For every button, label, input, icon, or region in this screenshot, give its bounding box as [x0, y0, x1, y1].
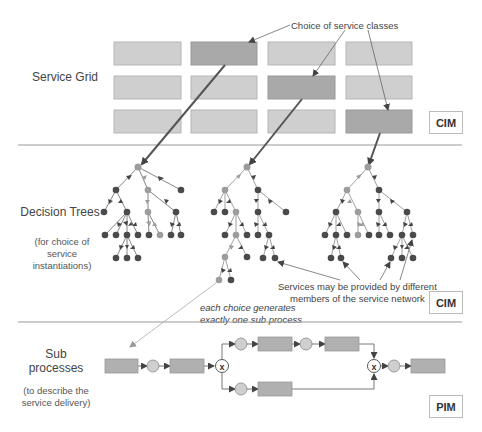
grid-cell [191, 76, 257, 99]
task-box [105, 359, 138, 373]
task-box [325, 337, 359, 351]
grid-cell-selected [268, 76, 335, 99]
grid-cell [114, 76, 181, 99]
decision-tree-3 [322, 164, 417, 262]
service-grid [114, 42, 412, 133]
grid-cell [268, 42, 335, 65]
sub-process-flow: x x [105, 337, 445, 396]
choice-generates-arrow [130, 283, 216, 347]
grid-cell [346, 76, 412, 99]
grid-cell-selected [346, 110, 412, 133]
event-circle [235, 383, 247, 395]
grid-cell-selected [191, 42, 257, 65]
decision-tree-1 [101, 164, 185, 262]
task-box [411, 359, 445, 373]
grid-cell [114, 42, 181, 65]
decision-tree-2 [211, 164, 290, 284]
grid-cell [346, 42, 412, 65]
event-circle [147, 360, 159, 372]
diagram-canvas: x x [0, 0, 482, 432]
task-box [170, 359, 204, 373]
gateway-x-symbol: x [219, 362, 224, 372]
event-circle [300, 338, 312, 350]
event-circle [388, 360, 400, 372]
task-box [258, 382, 292, 396]
event-circle [235, 338, 247, 350]
grid-cell [191, 110, 257, 133]
task-box [258, 337, 292, 351]
gateway-x-symbol: x [371, 362, 376, 372]
